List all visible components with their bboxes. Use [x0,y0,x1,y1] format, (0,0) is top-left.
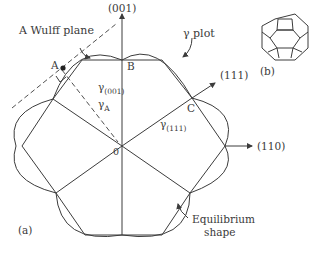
dir-001-label: (001) [108,2,136,14]
panel-a-label: (a) [18,224,32,236]
gamma-a-label: γA [98,98,110,113]
axis-111-arrow [192,83,215,98]
wulff-plane-label: A Wulff plane [18,24,94,37]
panel-b-label: (b) [260,65,275,77]
gamma-001-label: γ(001) [98,81,125,96]
truncated-octahedron-figure [262,14,308,60]
gamma-plot-label: γ plot [183,27,215,40]
gamma-plot-leader [183,38,192,57]
wulff-construction-diagram: A Wulff plane (001) γ plot (111) (110) A… [0,0,325,257]
origin-label: 0 [113,146,119,157]
gamma-111-label: γ(111) [160,118,187,133]
point-a-dot [60,65,65,70]
point-c-label: C [187,102,195,114]
equilibrium-label-line2: shape [204,226,235,238]
equilibrium-leader [178,204,188,218]
radial-lines [53,14,252,235]
dir-111-label: (111) [220,69,248,81]
right-angle-marker [56,76,66,82]
equilibrium-label-line1: Equilibrium [192,213,255,225]
point-b-label: B [127,60,135,72]
dir-110-label: (110) [257,140,285,152]
point-a-label: A [50,59,59,71]
